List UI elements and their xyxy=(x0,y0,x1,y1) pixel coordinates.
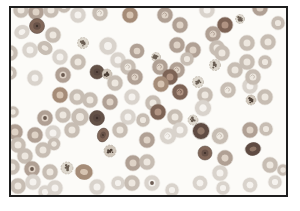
platelet-clump xyxy=(193,77,204,88)
red-blood-cell xyxy=(172,84,188,100)
echinocyte-cell xyxy=(243,178,258,193)
red-blood-cell xyxy=(258,55,272,69)
red-blood-cell xyxy=(111,176,125,190)
red-blood-cell xyxy=(52,87,68,103)
red-blood-cell xyxy=(205,26,221,42)
red-blood-cell xyxy=(180,52,194,66)
red-blood-cell xyxy=(82,92,98,108)
red-blood-cell xyxy=(260,34,276,50)
red-blood-cell xyxy=(193,123,210,140)
red-blood-cell xyxy=(52,49,68,65)
red-blood-cell xyxy=(25,174,41,190)
red-blood-cell xyxy=(127,69,143,85)
red-blood-cell xyxy=(216,181,230,195)
red-blood-cell xyxy=(195,100,212,117)
echinocyte-cell xyxy=(193,176,208,191)
echinocyte-cell xyxy=(217,150,233,166)
red-blood-cell xyxy=(136,113,150,127)
red-blood-cell xyxy=(257,89,273,105)
red-blood-cell xyxy=(160,128,177,145)
red-blood-cell xyxy=(22,42,38,58)
red-blood-cell xyxy=(48,138,61,151)
red-blood-cell xyxy=(122,7,138,23)
red-blood-cell xyxy=(27,70,43,86)
red-blood-cell xyxy=(144,175,160,191)
red-blood-cell xyxy=(214,45,230,61)
platelet-clump xyxy=(210,60,221,71)
red-blood-cell xyxy=(55,107,71,123)
red-blood-cell xyxy=(124,89,140,105)
red-blood-cell xyxy=(239,35,255,51)
red-blood-cell xyxy=(268,175,282,189)
red-blood-cell xyxy=(262,157,278,173)
red-blood-cell xyxy=(112,122,128,138)
red-blood-cell xyxy=(10,178,26,194)
red-blood-cell xyxy=(45,27,61,43)
red-blood-cell xyxy=(271,16,285,30)
red-blood-cell xyxy=(259,122,273,136)
red-blood-cell xyxy=(125,155,141,171)
red-blood-cell xyxy=(70,54,86,70)
platelet-clump xyxy=(78,38,89,49)
platelet-clump xyxy=(61,162,73,174)
red-blood-cell xyxy=(47,180,63,196)
red-blood-cell xyxy=(99,37,117,55)
spherocyte-cell xyxy=(30,19,45,34)
spherocyte-cell xyxy=(90,65,104,79)
red-blood-cell xyxy=(42,164,58,180)
red-blood-cell xyxy=(139,132,155,148)
red-blood-cell xyxy=(27,127,43,143)
red-blood-cell xyxy=(139,154,155,170)
platelet-clump xyxy=(236,15,245,24)
micrograph-canvas xyxy=(0,0,300,211)
platelet-clump xyxy=(246,95,256,105)
red-blood-cell xyxy=(220,82,236,98)
micrograph-figure xyxy=(0,0,300,211)
red-blood-cell xyxy=(242,122,258,138)
red-blood-cell xyxy=(64,122,80,138)
red-blood-cell xyxy=(245,69,261,85)
red-blood-cell xyxy=(227,62,243,78)
red-blood-cell xyxy=(55,67,71,83)
red-blood-cell xyxy=(157,7,173,23)
red-blood-cell xyxy=(107,75,123,91)
spherocyte-cell xyxy=(90,111,105,126)
red-blood-cell xyxy=(212,165,228,181)
spherocyte-cell xyxy=(198,146,212,160)
red-blood-cell xyxy=(153,76,169,92)
red-blood-cell xyxy=(70,7,86,23)
red-blood-cell xyxy=(89,179,105,195)
platelet-clump xyxy=(104,145,116,157)
red-blood-cell xyxy=(130,44,145,59)
red-blood-cell xyxy=(37,110,53,126)
red-blood-cell xyxy=(212,128,229,145)
red-blood-cell xyxy=(124,175,140,191)
red-blood-cell xyxy=(150,104,166,120)
red-blood-cell xyxy=(102,94,118,110)
red-blood-cell xyxy=(165,183,179,197)
red-blood-cell xyxy=(172,17,188,33)
red-blood-cell xyxy=(169,37,185,53)
